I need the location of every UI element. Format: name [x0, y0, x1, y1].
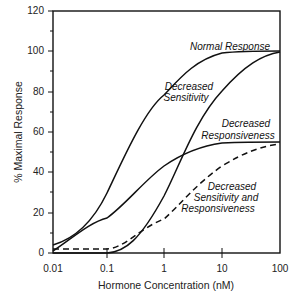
y-tick-40: 40: [33, 166, 45, 177]
y-tick-120: 120: [27, 5, 44, 16]
y-tick-labels: 0 20 40 60 80 100 120: [27, 5, 44, 258]
svg-text:Decreased: Decreased: [165, 81, 214, 92]
svg-text:Responsiveness: Responsiveness: [181, 203, 254, 214]
y-tick-100: 100: [27, 45, 44, 56]
dose-response-chart: 0 20 40 60 80 100 120 0.01 0.1 1 10 100 …: [0, 0, 295, 297]
x-tick-100: 100: [272, 263, 289, 274]
y-tick-80: 80: [33, 86, 45, 97]
x-tick-10: 10: [216, 263, 228, 274]
svg-text:Sensitivity: Sensitivity: [163, 92, 209, 103]
x-tick-0.1: 0.1: [100, 263, 114, 274]
svg-text:Decreased: Decreased: [208, 181, 257, 192]
x-tick-labels: 0.01 0.1 1 10 100: [43, 263, 289, 274]
y-tick-20: 20: [33, 207, 45, 218]
svg-text:Sensitivity and: Sensitivity and: [194, 192, 259, 203]
y-tick-0: 0: [38, 247, 44, 258]
x-tick-0.01: 0.01: [43, 263, 63, 274]
y-axis-title: % Maximal Response: [12, 81, 24, 183]
y-axis: [48, 11, 53, 253]
annot-normal-response: Normal Response: [190, 41, 270, 52]
annot-decreased-sensitivity-and-responsiveness: Decreased Sensitivity and Responsiveness: [181, 181, 258, 214]
x-axis-title: Hormone Concentration (nM): [98, 279, 234, 291]
svg-text:Decreased: Decreased: [222, 118, 271, 129]
annot-decreased-responsiveness: Decreased Responsiveness: [201, 118, 274, 141]
y-tick-60: 60: [33, 126, 45, 137]
x-tick-1: 1: [161, 263, 167, 274]
svg-text:Responsiveness: Responsiveness: [201, 130, 274, 141]
annot-decreased-sensitivity: Decreased Sensitivity: [163, 81, 213, 103]
